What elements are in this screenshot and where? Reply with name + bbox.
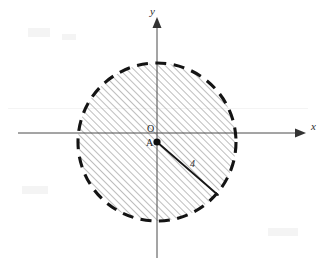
center-point-label: A: [146, 137, 154, 148]
circle-region-diagram: x y O A 4: [0, 0, 332, 272]
center-point-marker: [153, 138, 160, 145]
figure-canvas: x y O A 4: [0, 0, 332, 272]
x-axis-label: x: [310, 120, 316, 132]
radius-length-label: 4: [190, 158, 195, 169]
origin-label: O: [147, 123, 154, 134]
y-axis-label: y: [149, 5, 155, 17]
